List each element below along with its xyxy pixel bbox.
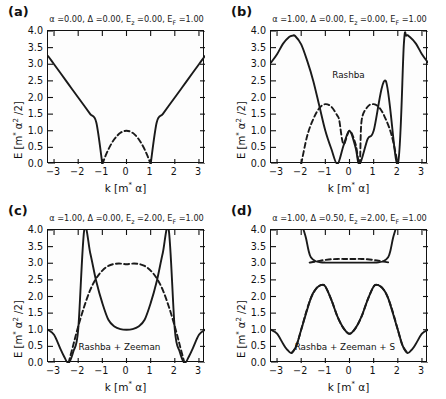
x-tick-label: −2 <box>66 166 88 177</box>
x-axis-label: k [m* α] <box>47 380 204 393</box>
x-axis-label: k [m* α] <box>47 181 204 194</box>
panel-c: (c)α =1.00, Δ =0.00, Ez =2.00, EF =1.000… <box>0 199 223 398</box>
x-tick-label: −1 <box>90 166 112 177</box>
x-tick-label: −1 <box>90 365 112 376</box>
x-axis-label: k [m* α] <box>270 181 427 194</box>
panel-tag-c: (c) <box>8 203 28 218</box>
plot-annotation-c: Rashba + Zeeman <box>79 342 161 352</box>
panel-a: (a)α =0.00, Δ =0.00, Ez =0.00, EF =1.000… <box>0 0 223 199</box>
x-tick-label: 2 <box>163 365 185 376</box>
plot-annotation-b: Rashba <box>332 70 364 80</box>
panel-tag-d: (d) <box>231 203 252 218</box>
x-tick-label: 1 <box>139 365 161 376</box>
x-tick-label: 1 <box>139 166 161 177</box>
x-tick-label: −3 <box>42 166 64 177</box>
y-tick-label: 2.5 <box>223 74 266 85</box>
x-tick-label: −1 <box>313 166 335 177</box>
param-delta: Δ =0.00 <box>87 14 120 24</box>
x-tick-label: 3 <box>410 365 432 376</box>
y-tick-label: 3.5 <box>223 240 266 251</box>
curve-outer-branch-solid <box>48 56 205 164</box>
panel-title-b: α =1.00, Δ =0.00, Ez =0.00, EF =1.00 <box>257 14 442 26</box>
y-tick-label: 2.5 <box>0 273 43 284</box>
x-tick-label: −2 <box>66 365 88 376</box>
figure-root: (a)α =0.00, Δ =0.00, Ez =0.00, EF =1.000… <box>0 0 446 399</box>
y-axis-label: E [m* α2 /2] <box>12 300 24 358</box>
y-tick-label: 3.0 <box>223 257 266 268</box>
panel-title-a: α =0.00, Δ =0.00, Ez =0.00, EF =1.00 <box>34 14 219 26</box>
x-tick-label: 3 <box>187 365 209 376</box>
x-tick-label: 3 <box>410 166 432 177</box>
x-tick-label: −3 <box>265 166 287 177</box>
x-tick-label: −2 <box>289 365 311 376</box>
x-tick-label: 3 <box>187 166 209 177</box>
param-delta: Δ =0.50 <box>310 213 343 223</box>
y-tick-label: 2.5 <box>223 273 266 284</box>
curve-canvas <box>48 31 205 164</box>
y-tick-label: 3.5 <box>0 240 43 251</box>
x-tick-label: −1 <box>313 365 335 376</box>
panel-title-d: α =1.00, Δ =0.50, Ez =2.00, EF =1.00 <box>257 213 442 225</box>
y-tick-label: 0.0 <box>223 357 266 368</box>
param-ez: Ez =0.00 <box>349 14 385 24</box>
param-alpha: α =1.00 <box>272 213 305 223</box>
x-tick-label: 1 <box>362 365 384 376</box>
x-tick-label: −3 <box>265 365 287 376</box>
x-tick-label: 2 <box>386 166 408 177</box>
param-alpha: α =0.00 <box>49 14 82 24</box>
param-ef: EF =1.00 <box>167 213 203 223</box>
param-ef: EF =1.00 <box>390 213 426 223</box>
x-tick-label: −3 <box>42 365 64 376</box>
param-ez: Ez =0.00 <box>126 14 162 24</box>
plot-area-b <box>270 30 427 163</box>
y-tick-label: 4.0 <box>223 224 266 235</box>
y-tick-label: 3.5 <box>0 41 43 52</box>
param-alpha: α =1.00 <box>49 213 82 223</box>
curve-branch-solid <box>271 32 428 164</box>
curve-branch-dashed <box>301 104 398 164</box>
param-ef: EF =1.00 <box>167 14 203 24</box>
y-tick-label: 3.0 <box>0 257 43 268</box>
panel-title-c: α =1.00, Δ =0.00, Ez =2.00, EF =1.00 <box>34 213 219 225</box>
y-tick-label: 2.5 <box>0 74 43 85</box>
curve-canvas <box>271 31 428 164</box>
param-delta: Δ =0.00 <box>310 14 343 24</box>
x-tick-label: 0 <box>338 166 360 177</box>
panel-tag-b: (b) <box>231 4 252 19</box>
y-axis-label: E [m* α2 /2] <box>235 300 247 358</box>
param-ef: EF =1.00 <box>390 14 426 24</box>
y-tick-label: 0.0 <box>223 158 266 169</box>
y-tick-label: 0.0 <box>0 158 43 169</box>
plot-annotation-d: Rashba + Zeeman + S <box>295 342 395 352</box>
panel-d: (d)α =1.00, Δ =0.50, Ez =2.00, EF =1.000… <box>223 199 446 398</box>
param-delta: Δ =0.00 <box>87 213 120 223</box>
x-tick-label: 2 <box>163 166 185 177</box>
panel-tag-a: (a) <box>8 4 29 19</box>
x-tick-label: 2 <box>386 365 408 376</box>
y-axis-label: E [m* α2 /2] <box>235 101 247 159</box>
panel-b: (b)α =1.00, Δ =0.00, Ez =0.00, EF =1.000… <box>223 0 446 199</box>
x-axis-label: k [m* α] <box>270 380 427 393</box>
x-tick-label: 0 <box>338 365 360 376</box>
plot-area-a <box>47 30 204 163</box>
y-tick-label: 3.0 <box>0 58 43 69</box>
y-tick-label: 0.0 <box>0 357 43 368</box>
y-axis-label: E [m* α2 /2] <box>12 101 24 159</box>
param-ez: Ez =2.00 <box>349 213 385 223</box>
x-tick-label: 0 <box>115 166 137 177</box>
y-tick-label: 4.0 <box>223 25 266 36</box>
y-tick-label: 3.0 <box>223 58 266 69</box>
y-tick-label: 4.0 <box>0 224 43 235</box>
param-alpha: α =1.00 <box>272 14 305 24</box>
param-ez: Ez =2.00 <box>126 213 162 223</box>
x-tick-label: −2 <box>289 166 311 177</box>
x-tick-label: 0 <box>115 365 137 376</box>
x-tick-label: 1 <box>362 166 384 177</box>
y-tick-label: 3.5 <box>223 41 266 52</box>
y-tick-label: 4.0 <box>0 25 43 36</box>
